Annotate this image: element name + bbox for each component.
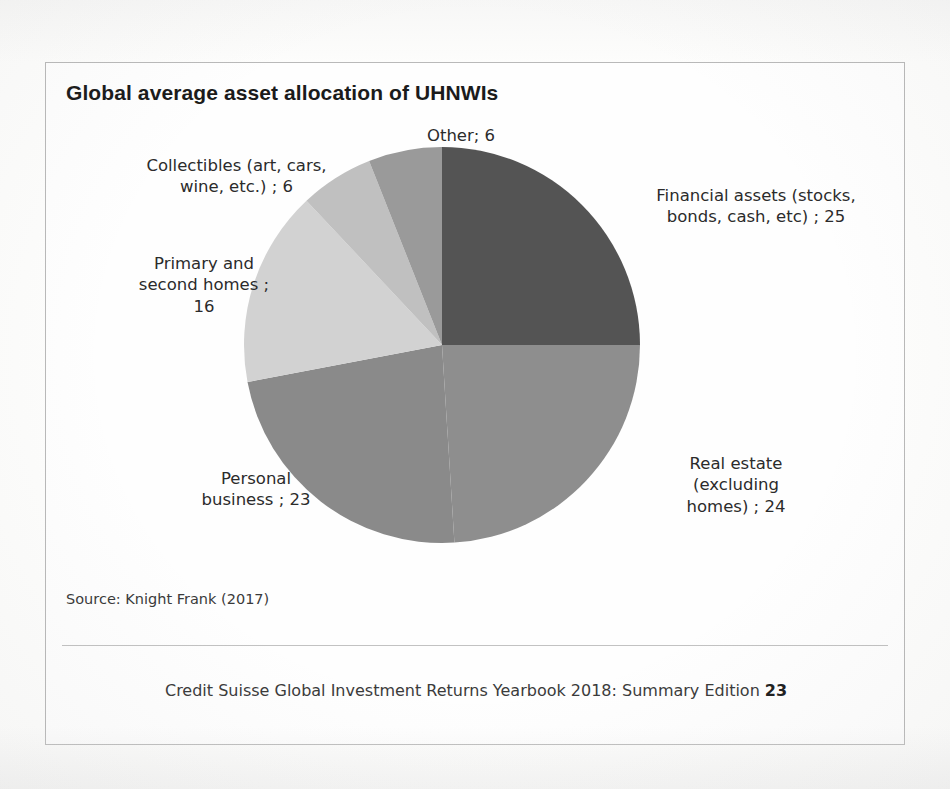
source-note: Source: Knight Frank (2017) <box>66 591 269 607</box>
pie-slice-financial-assets <box>442 147 640 345</box>
pie-chart-plot-area: Other; 6 Collectibles (art, cars, wine, … <box>46 63 906 623</box>
pie-label-other: Other; 6 <box>376 125 546 146</box>
scanned-page: Global average asset allocation of UHNWI… <box>0 0 950 789</box>
pie-slice-real-estate <box>442 345 640 543</box>
footer-publication-text: Credit Suisse Global Investment Returns … <box>165 681 760 700</box>
footer-divider <box>62 645 888 646</box>
footer-page-number: 23 <box>765 681 787 700</box>
pie-label-financial-assets: Financial assets (stocks, bonds, cash, e… <box>626 185 886 228</box>
footer: Credit Suisse Global Investment Returns … <box>46 681 906 700</box>
pie-label-primary-and-second-homes: Primary and second homes ; 16 <box>104 253 304 317</box>
pie-label-real-estate: Real estate (excluding homes) ; 24 <box>636 453 836 517</box>
pie-label-collectibles: Collectibles (art, cars, wine, etc.) ; 6 <box>134 155 339 198</box>
exhibit-card: Global average asset allocation of UHNWI… <box>45 62 905 745</box>
pie-label-personal-business: Personal business ; 23 <box>156 468 356 511</box>
